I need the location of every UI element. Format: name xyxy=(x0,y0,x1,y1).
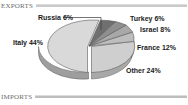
section-header-imports-label: IMPORTS xyxy=(1,93,35,101)
exports-pie-chart-panel: EXPORTS xyxy=(0,0,188,105)
pie-label-israel: Israel 8% xyxy=(140,26,170,34)
section-header-imports: IMPORTS xyxy=(1,92,187,101)
pie-label-turkey: Turkey 6% xyxy=(130,15,165,23)
pie-chart: Russia 6% Turkey 6% Israel 8% France 12%… xyxy=(0,9,188,92)
pie-label-russia: Russia 6% xyxy=(38,14,73,22)
section-header-exports-rule xyxy=(36,4,187,7)
section-header-imports-rule xyxy=(35,95,187,98)
pie-label-italy: Italy 44% xyxy=(13,39,43,47)
pie-label-france: France 12% xyxy=(137,44,176,52)
pie-label-other: Other 24% xyxy=(126,67,161,75)
